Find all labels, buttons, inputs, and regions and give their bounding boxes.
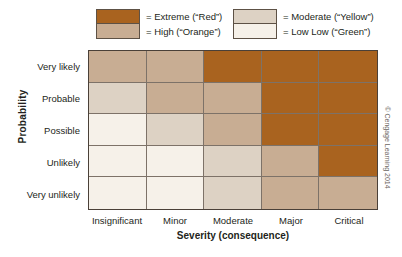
x-axis-title: Severity (consequence) bbox=[88, 230, 378, 241]
x-axis-label: Moderate bbox=[204, 212, 262, 228]
matrix-cell bbox=[89, 114, 147, 146]
matrix-cell bbox=[204, 83, 262, 115]
y-axis-label: Probable bbox=[18, 82, 84, 114]
matrix-cell bbox=[319, 146, 377, 178]
x-axis-labels: InsignificantMinorModerateMajorCritical bbox=[88, 212, 378, 228]
matrix-cell bbox=[204, 51, 262, 83]
matrix-cell bbox=[204, 177, 262, 209]
matrix-cell bbox=[147, 83, 205, 115]
legend-label-high: = High (“Orange”) bbox=[146, 24, 222, 39]
matrix-cell bbox=[147, 114, 205, 146]
x-axis-label: Major bbox=[262, 212, 320, 228]
y-axis-labels: Very likelyProbablePossibleUnlikelyVery … bbox=[18, 50, 84, 210]
matrix-cell bbox=[262, 51, 320, 83]
legend-swatch-stack-left bbox=[96, 9, 140, 39]
legend-label-extreme: = Extreme (“Red”) bbox=[146, 9, 222, 24]
legend-labels-left: = Extreme (“Red”) = High (“Orange”) bbox=[146, 9, 222, 39]
matrix-cell bbox=[262, 177, 320, 209]
copyright-credit: © Cengage Learning 2014 bbox=[384, 88, 391, 208]
matrix-cell bbox=[204, 146, 262, 178]
matrix-cell bbox=[147, 177, 205, 209]
matrix-cell bbox=[89, 83, 147, 115]
matrix-cell bbox=[147, 146, 205, 178]
legend-swatch-low bbox=[234, 24, 276, 38]
matrix-cell bbox=[89, 146, 147, 178]
x-axis-label: Minor bbox=[146, 212, 204, 228]
matrix-cell bbox=[262, 114, 320, 146]
legend-swatch-high bbox=[97, 24, 139, 38]
matrix-cell bbox=[262, 146, 320, 178]
y-axis-label: Possible bbox=[18, 114, 84, 146]
matrix-cell bbox=[262, 83, 320, 115]
matrix-cell bbox=[89, 177, 147, 209]
legend-label-low: = Low Low (“Green”) bbox=[283, 24, 374, 39]
x-axis-label: Insignificant bbox=[88, 212, 146, 228]
y-axis-label: Unlikely bbox=[18, 146, 84, 178]
matrix-cell bbox=[204, 114, 262, 146]
legend-swatch-stack-right bbox=[233, 9, 277, 39]
matrix-cell bbox=[319, 177, 377, 209]
legend-label-moderate: = Moderate (“Yellow”) bbox=[283, 9, 374, 24]
y-axis-label: Very likely bbox=[18, 50, 84, 82]
x-axis-label: Critical bbox=[320, 212, 378, 228]
legend-swatch-extreme bbox=[97, 10, 139, 24]
matrix-cell bbox=[147, 51, 205, 83]
matrix-cell bbox=[319, 51, 377, 83]
matrix-cell bbox=[319, 114, 377, 146]
matrix-cell bbox=[89, 51, 147, 83]
legend-group-left: = Extreme (“Red”) = High (“Orange”) bbox=[96, 9, 229, 40]
risk-matrix-grid bbox=[88, 50, 378, 210]
matrix-cell bbox=[319, 83, 377, 115]
legend-swatch-moderate bbox=[234, 10, 276, 24]
legend: = Extreme (“Red”) = High (“Orange”) = Mo… bbox=[96, 9, 386, 40]
legend-labels-right: = Moderate (“Yellow”) = Low Low (“Green”… bbox=[283, 9, 374, 39]
legend-group-right: = Moderate (“Yellow”) = Low Low (“Green”… bbox=[233, 9, 374, 40]
y-axis-label: Very unlikely bbox=[18, 178, 84, 210]
